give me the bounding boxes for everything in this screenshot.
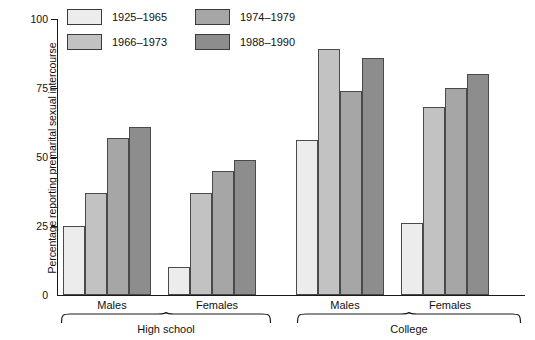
- brace-high-school: [60, 312, 272, 323]
- y-tick-label-100: 100: [22, 14, 48, 25]
- bar: [107, 138, 129, 295]
- y-tick-label-25: 25: [22, 221, 48, 232]
- brace-college: [296, 312, 522, 323]
- bar: [129, 127, 151, 295]
- y-tick-label-50: 50: [22, 152, 48, 163]
- bar: [168, 267, 190, 295]
- y-tick-label-75: 75: [22, 83, 48, 94]
- bar: [63, 226, 85, 295]
- bar: [362, 58, 384, 295]
- bar: [467, 74, 489, 295]
- bar: [190, 193, 212, 295]
- bar: [340, 91, 362, 295]
- bar: [401, 223, 423, 295]
- bar: [423, 107, 445, 295]
- bar: [318, 49, 340, 295]
- bar: [212, 171, 234, 295]
- group-label-col-males: Males: [295, 299, 395, 311]
- bar: [85, 193, 107, 295]
- plot-area: [57, 19, 525, 295]
- bar-chart: Percentage reporting premarital sexual i…: [0, 0, 535, 340]
- bar: [296, 140, 318, 295]
- group-label-hs-females: Females: [167, 299, 267, 311]
- bar: [445, 88, 467, 295]
- group-label-col-females: Females: [400, 299, 500, 311]
- bar: [234, 160, 256, 295]
- y-tick-label-0: 0: [22, 290, 48, 301]
- meta-label-college: College: [296, 323, 522, 335]
- meta-label-high-school: High school: [60, 323, 272, 335]
- group-label-hs-males: Males: [62, 299, 162, 311]
